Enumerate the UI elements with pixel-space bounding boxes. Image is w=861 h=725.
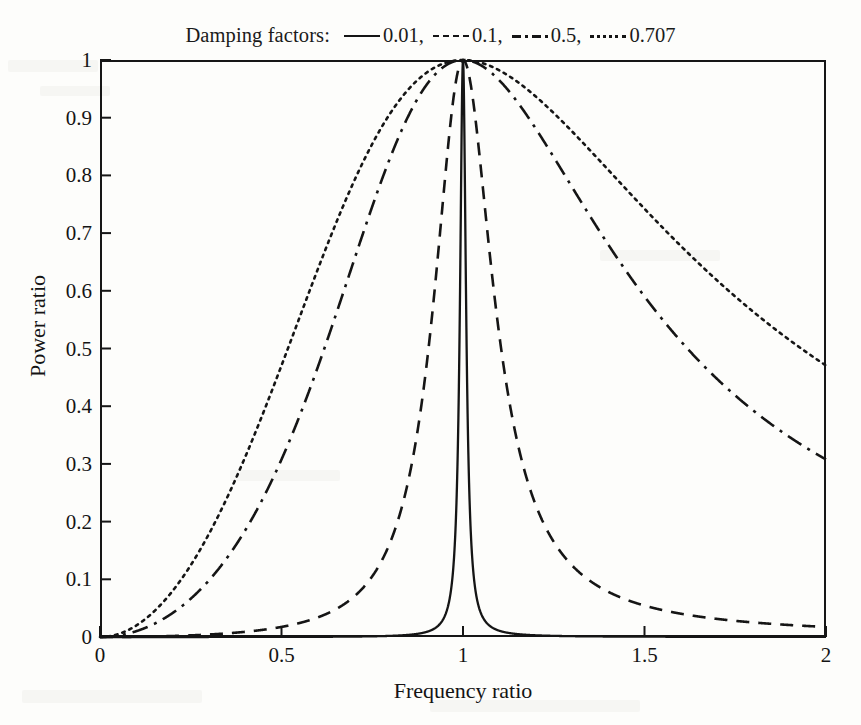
y-tick-label: 0.8 bbox=[12, 165, 92, 186]
x-tick-label: 1.5 bbox=[631, 645, 657, 666]
x-tick-label: 0 bbox=[95, 645, 106, 666]
legend-label-0.1: 0.1, bbox=[472, 24, 503, 47]
y-tick-label: 0.9 bbox=[12, 107, 92, 128]
y-tick-label: 1 bbox=[12, 50, 92, 71]
y-tick-label: 0 bbox=[12, 627, 92, 648]
x-tick-label: 2 bbox=[821, 645, 832, 666]
x-tick-label: 0.5 bbox=[268, 645, 294, 666]
curve-damping-0.01 bbox=[100, 60, 826, 637]
data-curves bbox=[100, 60, 826, 637]
axis-ticks bbox=[100, 60, 826, 637]
x-axis-tick-labels: 00.511.52 bbox=[100, 645, 826, 675]
chart-legend: Damping factors: 0.01, 0.1, 0.5, 0.707 bbox=[0, 18, 861, 52]
y-tick-label: 0.6 bbox=[12, 280, 92, 301]
curve-damping-0.5 bbox=[100, 60, 826, 637]
x-tick-label: 1 bbox=[458, 645, 469, 666]
curve-damping-0.1 bbox=[100, 60, 826, 637]
legend-title: Damping factors: bbox=[185, 24, 330, 47]
legend-swatch-solid-icon bbox=[344, 35, 380, 37]
y-tick-label: 0.5 bbox=[12, 338, 92, 359]
legend-entry-0.5: 0.5, bbox=[512, 24, 582, 47]
legend-entry-0.01: 0.01, bbox=[344, 24, 424, 47]
legend-entry-0.1: 0.1, bbox=[433, 24, 503, 47]
legend-entry-0.707: 0.707 bbox=[590, 24, 675, 47]
figure-canvas: Damping factors: 0.01, 0.1, 0.5, 0.707 0… bbox=[0, 0, 861, 725]
y-axis-title: Power ratio bbox=[25, 226, 51, 426]
y-tick-label: 0.2 bbox=[12, 511, 92, 532]
legend-swatch-dashdot-icon bbox=[512, 35, 548, 38]
y-tick-label: 0.1 bbox=[12, 569, 92, 590]
legend-label-0.5: 0.5, bbox=[551, 24, 582, 47]
legend-swatch-dashed-icon bbox=[433, 35, 469, 37]
legend-swatch-dotted-icon bbox=[590, 35, 626, 38]
y-tick-label: 0.3 bbox=[12, 453, 92, 474]
legend-label-0.707: 0.707 bbox=[629, 24, 675, 47]
plot-area bbox=[100, 60, 826, 637]
legend-label-0.01: 0.01, bbox=[383, 24, 424, 47]
y-tick-label: 0.4 bbox=[12, 396, 92, 417]
curve-damping-0.707 bbox=[100, 60, 826, 637]
y-tick-label: 0.7 bbox=[12, 223, 92, 244]
x-axis-title: Frequency ratio bbox=[100, 678, 826, 704]
